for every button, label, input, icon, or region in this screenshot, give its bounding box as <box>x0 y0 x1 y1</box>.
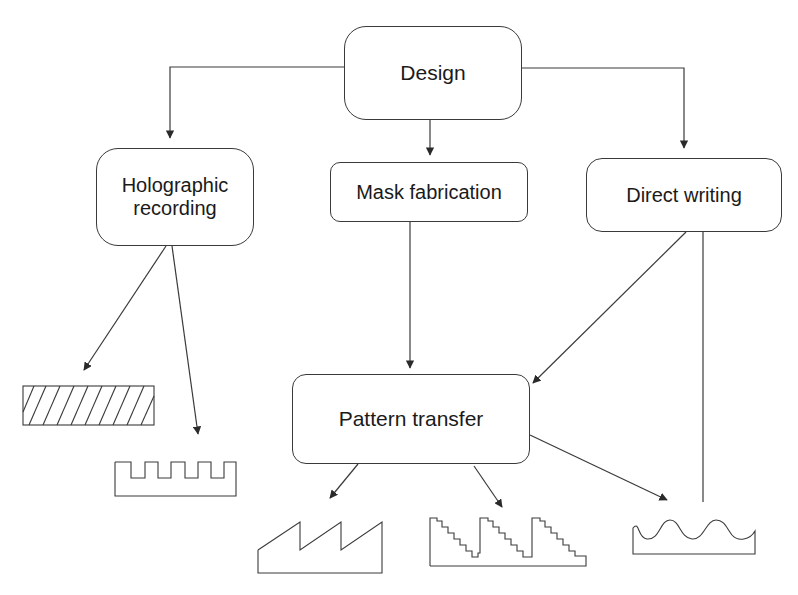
node-pattern-label: Pattern transfer <box>339 407 484 431</box>
node-design-label: Design <box>400 61 465 85</box>
continuous-sinusoidal-relief-icon <box>633 520 755 554</box>
node-holographic-label: Holographic recording <box>122 174 229 220</box>
edge-design-direct <box>522 68 684 148</box>
edge-pattern-continuous <box>530 435 667 500</box>
node-holographic-recording: Holographic recording <box>96 148 254 246</box>
blazed-sawtooth-grating-icon <box>258 522 382 573</box>
node-holographic-label-line2: recording <box>122 197 229 220</box>
diagram-canvas: Design Holographic recording Mask fabric… <box>0 0 798 595</box>
node-pattern-transfer: Pattern transfer <box>292 374 530 464</box>
binary-grating-icon <box>115 462 236 496</box>
edge-holographic-hatched <box>84 246 166 370</box>
multilevel-staircase-grating-icon <box>430 518 586 566</box>
node-direct-writing: Direct writing <box>586 158 782 232</box>
node-direct-label: Direct writing <box>626 184 742 207</box>
edge-holographic-binary <box>172 246 198 434</box>
edge-direct-pattern <box>533 232 686 383</box>
edge-pattern-sawtooth <box>330 464 358 498</box>
node-holographic-label-line1: Holographic <box>122 174 229 197</box>
node-design: Design <box>344 26 522 120</box>
edge-pattern-staircase <box>474 466 502 507</box>
node-mask-fabrication: Mask fabrication <box>330 162 528 222</box>
node-mask-label: Mask fabrication <box>356 181 502 204</box>
slanted-hatched-grating-icon <box>23 386 154 425</box>
edge-design-holographic <box>170 67 344 138</box>
